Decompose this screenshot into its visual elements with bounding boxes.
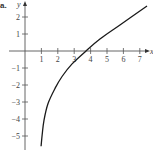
y-tick-label: −5 <box>11 132 20 141</box>
y-tick-label: −2 <box>11 81 20 90</box>
x-tick-label: 5 <box>105 55 109 64</box>
y-tick-label: −3 <box>11 98 20 107</box>
y-tick-label: −4 <box>11 115 20 124</box>
x-tick-label: 2 <box>56 55 60 64</box>
y-tick-label: 2 <box>16 13 20 22</box>
y-tick-label: −1 <box>11 64 20 73</box>
y-ticks: 21−1−2−3−4−5 <box>11 13 28 141</box>
panel-label: a. <box>0 1 7 10</box>
y-tick-label: 1 <box>16 30 20 39</box>
x-tick-label: 1 <box>39 55 43 64</box>
y-axis-label: y <box>16 0 21 9</box>
axes <box>9 1 150 150</box>
x-tick-label: 4 <box>89 55 93 64</box>
y-axis-arrow-icon <box>23 1 27 6</box>
x-tick-label: 7 <box>138 55 142 64</box>
x-ticks: 1234567 <box>39 48 141 64</box>
x-tick-label: 6 <box>121 55 125 64</box>
data-curve <box>41 6 147 146</box>
chart: a. 1234567 21−1−2−3−4−5 x y <box>0 0 153 152</box>
x-axis-label: x <box>149 47 153 56</box>
